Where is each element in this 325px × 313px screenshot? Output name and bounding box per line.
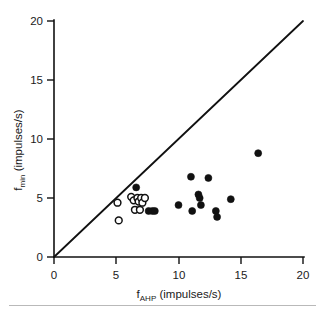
data-point-filled [255, 150, 262, 157]
data-point-filled [197, 202, 204, 209]
data-point-filled [227, 196, 234, 203]
x-axis-title-units: (impulses/s) [156, 288, 221, 300]
y-tick-label-0: 0 [37, 251, 43, 263]
data-point-filled [175, 202, 182, 209]
y-tick-label-20: 20 [30, 15, 43, 27]
data-point-open [141, 195, 148, 202]
x-axis-title-sub: AHP [140, 294, 156, 303]
footer-divider [9, 305, 316, 306]
data-point-filled [196, 195, 203, 202]
y-axis-title-sub: min [18, 175, 27, 188]
y-tick-label-15: 15 [30, 74, 43, 86]
data-point-filled [214, 213, 221, 220]
x-axis-ticks [54, 257, 303, 264]
scatter-plot: 20 15 10 5 0 0 5 10 15 20 fAHP (impulses… [0, 0, 325, 313]
data-series-filled-circles [133, 150, 262, 221]
data-point-filled [187, 173, 194, 180]
y-axis-tick-labels: 20 15 10 5 0 [30, 15, 43, 263]
x-tick-label-10: 10 [173, 269, 186, 281]
x-tick-label-5: 5 [113, 269, 119, 281]
data-point-open [114, 199, 121, 206]
x-axis-tick-labels: 0 5 10 15 20 [51, 269, 310, 281]
identity-line [54, 21, 303, 257]
x-tick-label-15: 15 [235, 269, 248, 281]
data-point-filled [133, 184, 140, 191]
x-tick-label-20: 20 [297, 269, 310, 281]
y-tick-label-10: 10 [30, 133, 43, 145]
data-point-open [115, 217, 122, 224]
x-axis-title: fAHP (impulses/s) [137, 288, 222, 303]
figure-panel: 20 15 10 5 0 0 5 10 15 20 fAHP (impulses… [0, 0, 325, 313]
data-series-open-circles [114, 193, 148, 223]
data-point-open [137, 206, 144, 213]
y-axis-ticks [47, 21, 54, 257]
data-point-filled [151, 207, 158, 214]
y-axis-title-units: (impulses/s) [12, 109, 24, 174]
x-tick-label-0: 0 [51, 269, 57, 281]
data-point-filled [205, 174, 212, 181]
data-point-filled [189, 207, 196, 214]
y-tick-label-5: 5 [37, 192, 43, 204]
y-axis-title: fmin (impulses/s) [12, 109, 27, 190]
